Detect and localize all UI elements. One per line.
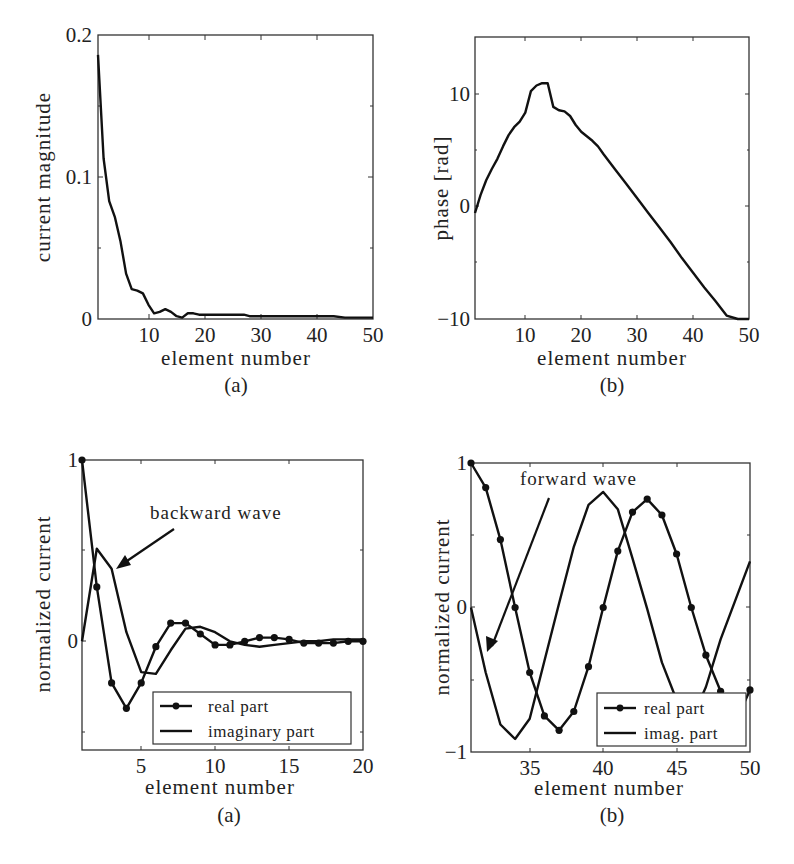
data-point-marker (600, 604, 607, 611)
x-axis-label: element number (145, 775, 295, 799)
data-point-marker (241, 638, 248, 645)
plot-frame (98, 35, 373, 319)
data-point-marker (556, 727, 563, 734)
caption: (b) (600, 803, 625, 827)
ytick-label: 10 (449, 82, 470, 106)
ytick-label: 0.2 (66, 23, 92, 47)
data-point-marker (123, 705, 130, 712)
xtick-label: 20 (353, 754, 374, 778)
y-axis-label: current magnitude (31, 92, 55, 262)
data-point-marker (212, 641, 219, 648)
xtick-label: 30 (251, 323, 272, 347)
magnitude-line (98, 55, 373, 318)
data-point-marker (688, 604, 695, 611)
data-point-marker (497, 536, 504, 543)
y-axis-label: normalized current (430, 518, 454, 695)
data-point-marker (197, 630, 204, 637)
data-point-marker (167, 620, 174, 627)
xtick-label: 20 (571, 323, 592, 347)
data-point-marker (511, 604, 518, 611)
xtick-label: 40 (307, 323, 328, 347)
data-point-marker (644, 496, 651, 503)
data-point-marker (629, 508, 636, 515)
real-part-markers (78, 456, 366, 712)
data-point-marker (138, 679, 145, 686)
data-point-marker (78, 456, 85, 463)
phase-line (475, 83, 749, 319)
data-point-marker (271, 634, 278, 641)
data-point-marker (359, 638, 366, 645)
xtick-label: 50 (739, 323, 760, 347)
y-axis-label: phase [rad] (429, 136, 453, 241)
x-axis-label: element number (161, 346, 311, 370)
legend-imag-label: imag. part (644, 724, 718, 743)
chart-top-a: 0.2 0.1 0 10 20 30 40 50 element number … (31, 23, 384, 397)
data-point-marker (614, 548, 621, 555)
figure-canvas: 0.2 0.1 0 10 20 30 40 50 element number … (0, 0, 794, 864)
ytick-label: 0 (68, 629, 79, 653)
real-part-line (82, 460, 363, 708)
ytick-label: 0.1 (66, 165, 92, 189)
chart-bottom-b: forward wave real part imag. part 1 0 −1… (430, 451, 761, 827)
xtick-label: 50 (740, 756, 761, 780)
legend-real-label: real part (208, 697, 269, 716)
imaginary-part-line (82, 549, 363, 674)
xtick-label: 20 (195, 323, 216, 347)
y-axis-label: normalized current (31, 515, 55, 692)
forward-wave-annotation: forward wave (520, 468, 637, 489)
ytick-label: 0 (82, 307, 93, 331)
data-point-marker (482, 484, 489, 491)
ytick-label: −1 (445, 740, 467, 764)
ytick-label: −10 (437, 307, 470, 331)
xtick-label: 50 (363, 323, 384, 347)
xtick-label: 10 (515, 323, 536, 347)
data-point-marker (345, 638, 352, 645)
legend-real-label: real part (644, 699, 705, 718)
caption: (a) (217, 803, 240, 827)
data-point-marker (182, 620, 189, 627)
data-point-marker (226, 641, 233, 648)
ytick-label: 1 (68, 448, 79, 472)
chart-top-b: 10 0 −10 10 20 30 40 50 element number (… (429, 37, 760, 397)
legend-real-marker-icon (173, 703, 180, 710)
data-point-marker (467, 459, 474, 466)
ytick-label: 0 (460, 194, 471, 218)
data-point-marker (541, 712, 548, 719)
x-axis-label: element number (534, 776, 684, 800)
data-point-marker (93, 583, 100, 590)
arrowhead-icon (486, 636, 498, 652)
xtick-label: 10 (139, 323, 160, 347)
ticks (475, 37, 749, 319)
data-point-marker (256, 634, 263, 641)
data-point-marker (315, 640, 322, 647)
x-axis-label: element number (537, 346, 687, 370)
legend: real part imag. part (597, 693, 746, 746)
data-point-marker (658, 511, 665, 518)
ytick-label: 1 (457, 451, 468, 475)
data-point-marker (746, 686, 753, 693)
data-point-marker (526, 669, 533, 676)
caption: (b) (600, 373, 625, 397)
chart-bottom-a: backward wave real part imaginary part 1… (31, 448, 374, 827)
plot-frame (475, 37, 749, 319)
ytick-label: 0 (457, 595, 468, 619)
ticks (98, 35, 373, 319)
data-point-marker (585, 663, 592, 670)
data-point-marker (702, 652, 709, 659)
caption: (a) (224, 373, 247, 397)
forward-wave-arrow-icon (492, 498, 549, 646)
data-point-marker (286, 636, 293, 643)
xtick-label: 40 (683, 323, 704, 347)
data-point-marker (152, 643, 159, 650)
legend: real part imaginary part (153, 692, 351, 744)
arrowhead-icon (116, 555, 131, 569)
real-part-line (471, 463, 750, 730)
data-point-marker (108, 679, 115, 686)
data-point-marker (570, 708, 577, 715)
legend-real-marker-icon (617, 705, 624, 712)
data-point-marker (300, 640, 307, 647)
legend-imag-label: imaginary part (208, 722, 315, 741)
backward-wave-annotation: backward wave (150, 502, 282, 523)
xtick-label: 30 (627, 323, 648, 347)
data-point-marker (673, 550, 680, 557)
